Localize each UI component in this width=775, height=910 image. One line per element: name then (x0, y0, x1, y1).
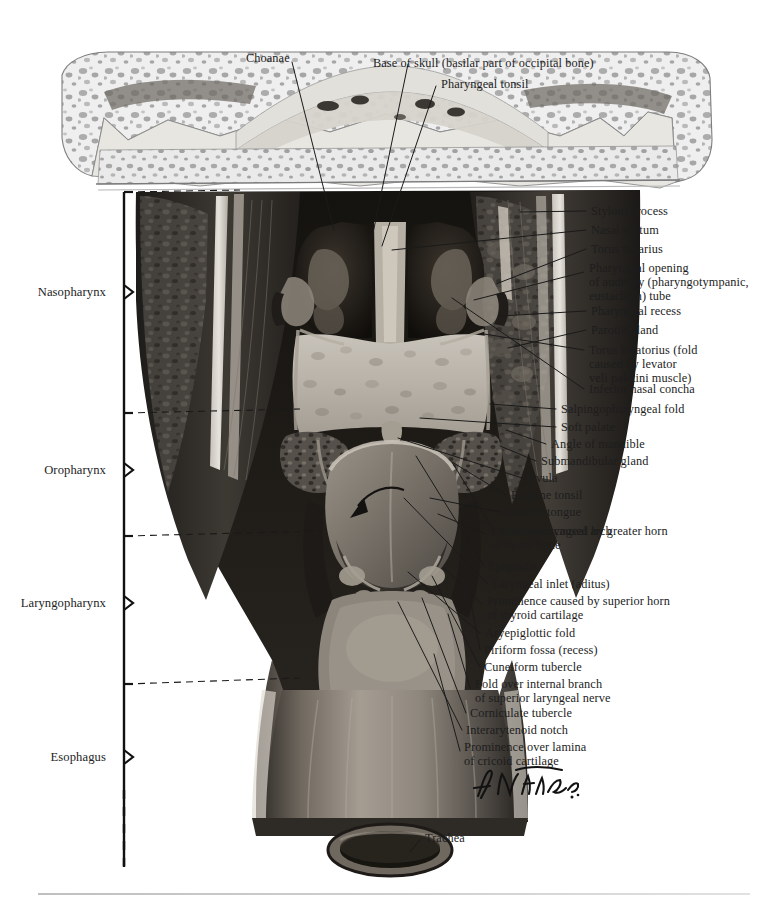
region-label-laryngopharynx: Laryngopharynx (0, 596, 106, 610)
label-submandibular-gland: Submandibular gland (541, 454, 648, 468)
region-label-oropharynx: Oropharynx (0, 463, 106, 477)
top-label-pharyngeal-tonsil: Pharyngeal tonsil (441, 77, 528, 91)
label-cuneiform-tubercle: Cuneiform tubercle (484, 660, 582, 674)
top-label-base-of-skull: Base of skull (basilar part of occipital… (373, 56, 594, 70)
label-interarytenoid-notch: Interarytenoid notch (466, 723, 568, 737)
label-inferior-nasal-concha: Inferior nasal concha (589, 382, 695, 396)
label-uvula: Uvula (527, 471, 558, 485)
label-torus-tubarius: Torus tubarius (591, 242, 663, 256)
label-laryngeal-inlet: Laryngeal inlet (aditus) (492, 577, 610, 591)
label-prominence-superior-horn-thyroid: Prominence caused by superior horn of th… (487, 594, 670, 622)
label-trachea: Trachea (425, 831, 465, 845)
label-prominence-greater-horn-hyoid: Prominence caused by greater horn of hyo… (491, 524, 668, 552)
label-aryepiglottic-fold: Aryepiglottic fold (485, 626, 575, 640)
skull-base-group (62, 52, 712, 190)
artist-signature (472, 764, 592, 806)
label-nasal-septum: Nasal septum (591, 223, 659, 237)
label-parotid-gland: Parotid gland (591, 323, 658, 337)
label-palatine-tonsil: Palatine tonsil (511, 488, 583, 502)
label-epiglottis: Epiglottis (488, 559, 537, 573)
label-angle-of-mandible: Angle of mandible (551, 437, 645, 451)
figure-page: Choanae Base of skull (basilar part of o… (0, 0, 775, 910)
label-styloid-process: Styloid process (591, 204, 668, 218)
label-pharyngeal-opening-auditory-tube: Pharyngeal opening of auditory (pharyngo… (589, 261, 749, 304)
label-piriform-fossa: Piriform fossa (recess) (484, 643, 598, 657)
top-label-choanae: Choanae (246, 51, 290, 65)
label-fold-internal-branch-laryngeal-nerve: Fold over internal branch of superior la… (475, 677, 611, 705)
label-pharyngeal-recess: Pharyngeal recess (591, 304, 681, 318)
bottom-rule (38, 893, 750, 895)
label-torus-levatorius: Torus levatorius (fold caused by levator… (589, 343, 698, 386)
anatomical-illustration (0, 0, 775, 910)
region-label-nasopharynx: Nasopharynx (0, 285, 106, 299)
label-soft-palate: Soft palate (561, 420, 615, 434)
label-salpingopharyngeal-fold: Salpingopharyngeal fold (561, 402, 685, 416)
label-corniculate-tubercle: Corniculate tubercle (470, 706, 572, 720)
label-root-of-tongue: Root of tongue (506, 505, 581, 519)
region-label-esophagus: Esophagus (0, 750, 106, 764)
